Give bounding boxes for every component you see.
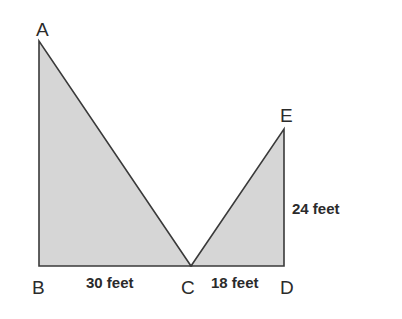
vertex-label-c: C bbox=[181, 277, 195, 298]
triangle-abc bbox=[39, 41, 191, 266]
vertex-label-d: D bbox=[280, 277, 294, 298]
measurement-cd: 18 feet bbox=[211, 274, 259, 291]
triangle-edc bbox=[191, 129, 284, 266]
vertex-label-e: E bbox=[280, 105, 293, 126]
measurement-bc: 30 feet bbox=[86, 274, 134, 291]
vertex-label-b: B bbox=[32, 277, 45, 298]
vertex-label-a: A bbox=[36, 19, 49, 40]
similar-triangles-diagram: A B C D E 30 feet 18 feet 24 feet bbox=[0, 0, 402, 319]
measurement-de: 24 feet bbox=[292, 200, 340, 217]
